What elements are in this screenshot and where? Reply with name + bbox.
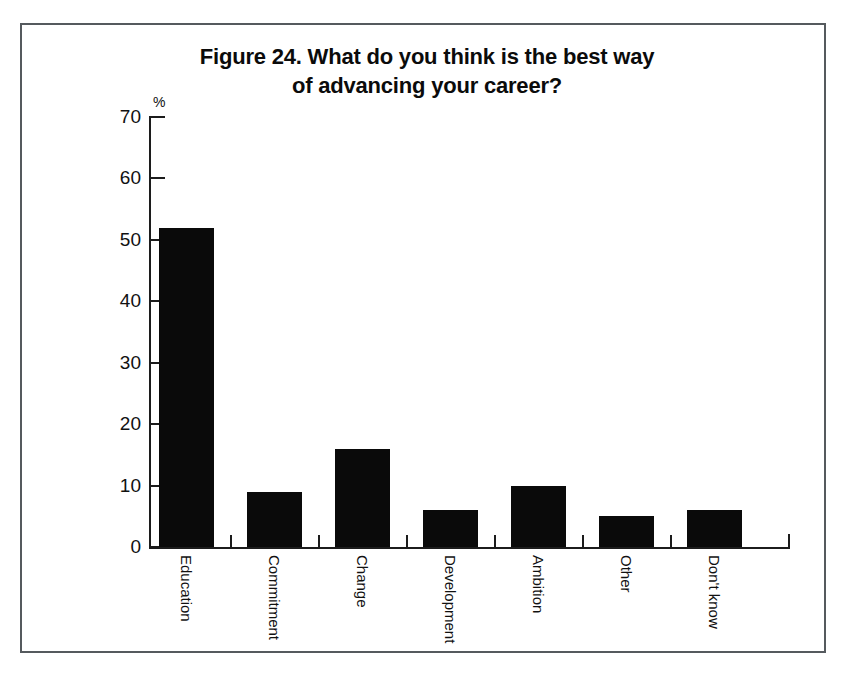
x-axis-label: Education <box>179 555 194 622</box>
bar <box>159 228 214 547</box>
x-axis-label: Development <box>443 555 458 643</box>
bar <box>335 449 390 547</box>
y-axis-tick-label: 0 <box>97 537 141 556</box>
bar <box>423 510 478 547</box>
x-axis-label: Ambition <box>531 555 546 613</box>
y-axis-tick-label: 50 <box>97 230 141 249</box>
plot-area: % 010203040506070 EducationCommitmentCha… <box>149 97 794 597</box>
y-axis-tick-label: 40 <box>97 291 141 310</box>
x-axis-label: Commitment <box>267 555 282 640</box>
x-axis-label: Change <box>355 555 370 608</box>
x-axis-label: Don't know <box>707 555 722 629</box>
y-axis-tick-label: 20 <box>97 414 141 433</box>
bar <box>247 492 302 547</box>
y-axis-tick-label: 10 <box>97 476 141 495</box>
y-axis-tick-label: 60 <box>97 168 141 187</box>
chart-title-line-1: Figure 24. What do you think is the best… <box>112 42 742 71</box>
bar <box>599 516 654 547</box>
y-axis-tick-label: 70 <box>97 107 141 126</box>
bar-series <box>149 97 790 547</box>
x-axis-label: Other <box>619 555 634 593</box>
figure-border: Figure 24. What do you think is the best… <box>20 23 826 653</box>
y-axis-tick-label: 30 <box>97 353 141 372</box>
bar <box>687 510 742 547</box>
chart-title: Figure 24. What do you think is the best… <box>112 42 742 100</box>
bar <box>511 486 566 547</box>
chart-title-line-2: of advancing your career? <box>112 71 742 100</box>
x-axis-line <box>149 547 790 549</box>
